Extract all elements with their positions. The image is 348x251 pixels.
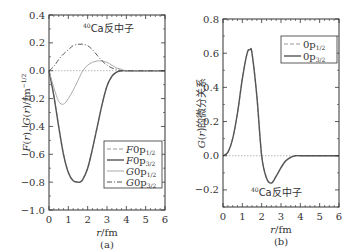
chart-panel-a: 01234560.40.20.0−0.2−0.4−0.6−0.8−1.0r/fm… <box>20 10 168 251</box>
y-tick-label: 0.0 <box>203 150 219 161</box>
x-tick-label: 5 <box>142 214 148 225</box>
series-0p1-2 <box>223 49 339 184</box>
x-tick-label: 6 <box>336 211 342 222</box>
y-tick-label: 0.6 <box>203 48 219 59</box>
x-tick-label: 0 <box>220 211 226 222</box>
nucleus-annotation: 40Ca反中子 <box>251 186 302 198</box>
y-tick-label: 0.8 <box>203 14 219 25</box>
panel-label: (b) <box>274 236 288 247</box>
figure: 01234560.40.20.0−0.2−0.4−0.6−0.8−1.0r/fm… <box>0 0 348 251</box>
y-tick-label: −0.2 <box>195 184 219 195</box>
x-tick-label: 4 <box>297 211 303 222</box>
y-tick-label: 0.4 <box>29 10 45 21</box>
x-tick-label: 2 <box>258 211 264 222</box>
x-tick-label: 1 <box>65 214 71 225</box>
nucleus-annotation: 40Ca反中子 <box>83 22 134 34</box>
x-tick-label: 0 <box>46 214 52 225</box>
series-G0p1-2 <box>49 61 165 105</box>
series-0p3-2 <box>223 49 339 184</box>
x-tick-label: 6 <box>162 214 168 225</box>
x-tick-label: 5 <box>316 211 322 222</box>
y-axis-label: G(r)的微分关系 <box>195 78 207 149</box>
y-tick-label: −0.8 <box>21 177 45 188</box>
panel-label: (a) <box>100 239 114 250</box>
x-axis-label: r/fm <box>270 224 292 235</box>
y-tick-label: 0.2 <box>29 37 45 48</box>
chart-panel-b: 01234560.80.60.40.20.0−0.2r/fm(b)G(r)的微分… <box>195 14 342 248</box>
x-tick-label: 3 <box>104 214 110 225</box>
x-tick-label: 4 <box>123 214 129 225</box>
x-tick-label: 3 <box>278 211 284 222</box>
series-G0p3-2 <box>49 44 165 71</box>
x-tick-label: 1 <box>239 211 245 222</box>
y-axis-label: F(r), G(r)/fm−1/2 <box>20 73 32 152</box>
x-axis-label: r/fm <box>96 227 118 238</box>
y-tick-label: −1.0 <box>21 205 45 216</box>
x-tick-label: 2 <box>84 214 90 225</box>
y-tick-label: 0.0 <box>29 65 45 76</box>
